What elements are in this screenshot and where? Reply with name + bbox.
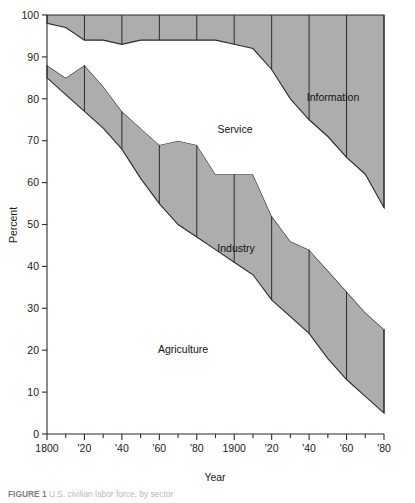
band-label-service: Service bbox=[217, 123, 252, 135]
y-tick-label-0: 0 bbox=[33, 428, 39, 440]
figure-caption: FIGURE 1 U.S. civilian labor force, by s… bbox=[8, 489, 408, 500]
labor-force-area-chart: 0102030405060708090100 1800'20'40'60'801… bbox=[0, 0, 415, 503]
x-tick-label-1900: 1900 bbox=[223, 442, 247, 454]
figure-container: 0102030405060708090100 1800'20'40'60'801… bbox=[0, 0, 415, 503]
y-tick-label-40: 40 bbox=[27, 260, 39, 272]
x-tick-label-1940: '40 bbox=[302, 442, 316, 454]
y-tick-label-70: 70 bbox=[27, 134, 39, 146]
x-tick-label-1880: '80 bbox=[190, 442, 204, 454]
x-tick-label-1820: '20 bbox=[78, 442, 92, 454]
caption-label: FIGURE 1 bbox=[8, 489, 47, 499]
x-axis-ticks: 1800'20'40'60'801900'20'40'60'80 bbox=[35, 434, 391, 454]
y-tick-label-60: 60 bbox=[27, 176, 39, 188]
band-label-agriculture: Agriculture bbox=[158, 343, 208, 355]
x-tick-label-1800: 1800 bbox=[35, 442, 59, 454]
caption-text: U.S. civilian labor force, by sector bbox=[49, 489, 173, 499]
band-label-information: Information bbox=[307, 91, 360, 103]
y-tick-label-10: 10 bbox=[27, 386, 39, 398]
x-tick-label-1920: '20 bbox=[265, 442, 279, 454]
y-tick-label-80: 80 bbox=[27, 93, 39, 105]
y-axis-ticks: 0102030405060708090100 bbox=[21, 9, 47, 440]
x-axis-title: Year bbox=[204, 471, 226, 483]
x-tick-label-1840: '40 bbox=[115, 442, 129, 454]
y-tick-label-50: 50 bbox=[27, 218, 39, 230]
y-tick-label-100: 100 bbox=[21, 9, 39, 21]
y-tick-label-30: 30 bbox=[27, 302, 39, 314]
chart-bands bbox=[47, 15, 384, 434]
x-tick-label-1980: '80 bbox=[377, 442, 391, 454]
band-label-industry: Industry bbox=[217, 242, 255, 254]
y-tick-label-20: 20 bbox=[27, 344, 39, 356]
y-axis-title: Percent bbox=[7, 207, 19, 243]
y-tick-label-90: 90 bbox=[27, 51, 39, 63]
x-tick-label-1860: '60 bbox=[152, 442, 166, 454]
x-tick-label-1960: '60 bbox=[340, 442, 354, 454]
